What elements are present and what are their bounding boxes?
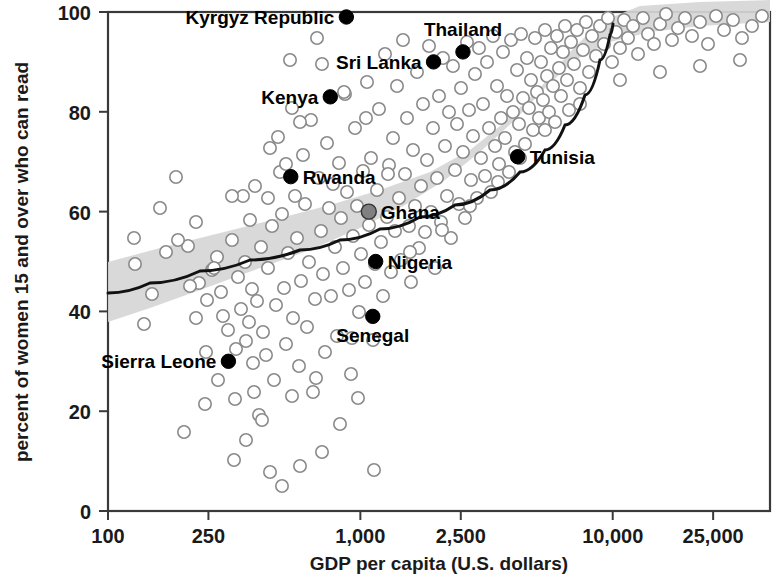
x-tick-label: 250 — [192, 525, 225, 547]
data-point — [243, 316, 255, 328]
data-point — [431, 172, 443, 184]
data-point — [535, 56, 547, 68]
data-point — [727, 14, 739, 26]
data-point — [479, 170, 491, 182]
data-point — [310, 372, 322, 384]
data-point — [433, 90, 445, 102]
data-point — [251, 295, 263, 307]
data-point — [463, 104, 475, 116]
data-point — [481, 56, 493, 68]
data-point — [397, 34, 409, 46]
data-point — [614, 74, 626, 86]
data-point — [154, 202, 166, 214]
highlighted-point-nigeria — [368, 254, 382, 268]
data-point — [694, 60, 706, 72]
data-point — [475, 152, 487, 164]
y-tick-label: 60 — [69, 202, 91, 224]
data-point — [307, 386, 319, 398]
data-point — [301, 321, 313, 333]
data-point — [294, 116, 306, 128]
data-point — [686, 30, 698, 42]
data-point — [316, 58, 328, 70]
data-point — [555, 90, 567, 102]
data-point — [602, 12, 614, 24]
data-point — [523, 102, 535, 114]
data-point — [359, 276, 371, 288]
data-point — [553, 62, 565, 74]
data-point — [199, 398, 211, 410]
data-point — [323, 202, 335, 214]
data-point — [343, 284, 355, 296]
data-point — [580, 16, 592, 28]
data-point — [511, 64, 523, 76]
data-point — [439, 140, 451, 152]
x-tick-label: 25,000 — [683, 525, 744, 547]
data-point — [469, 68, 481, 80]
data-point — [360, 112, 372, 124]
data-point — [521, 52, 533, 64]
data-point — [325, 290, 337, 302]
data-point — [262, 262, 274, 274]
data-point — [756, 10, 768, 22]
point-label-nigeria: Nigeria — [388, 252, 453, 273]
data-point — [338, 86, 350, 98]
point-label-senegal: Senegal — [336, 325, 409, 346]
x-tick-label: 100 — [91, 525, 124, 547]
data-point — [280, 158, 292, 170]
data-point — [561, 74, 573, 86]
data-point — [736, 32, 748, 44]
data-point — [232, 271, 244, 283]
data-point — [405, 276, 417, 288]
data-point — [497, 46, 509, 58]
point-label-sri-lanka: Sri Lanka — [336, 52, 422, 73]
data-point — [311, 32, 323, 44]
data-point — [734, 54, 746, 66]
highlighted-point-sri-lanka — [426, 55, 440, 69]
data-point — [451, 118, 463, 130]
data-point — [260, 349, 272, 361]
data-point — [459, 212, 471, 224]
data-point — [287, 312, 299, 324]
data-point — [309, 293, 321, 305]
data-point — [226, 190, 238, 202]
y-tick-label: 20 — [69, 401, 91, 423]
data-point — [427, 122, 439, 134]
data-point — [537, 94, 549, 106]
data-point — [415, 180, 427, 192]
data-point — [491, 80, 503, 92]
data-point — [568, 58, 580, 70]
data-point — [577, 44, 589, 56]
data-point — [184, 280, 196, 292]
data-point — [387, 132, 399, 144]
data-point — [421, 154, 433, 166]
data-point — [503, 166, 515, 178]
highlighted-point-rwanda — [284, 169, 298, 183]
data-point — [457, 146, 469, 158]
data-point — [455, 82, 467, 94]
data-point — [660, 8, 672, 20]
data-point — [559, 20, 571, 32]
data-point — [235, 303, 247, 315]
point-label-rwanda: Rwanda — [303, 167, 376, 188]
data-point — [337, 262, 349, 274]
data-point — [365, 152, 377, 164]
data-point — [255, 241, 267, 253]
data-point — [407, 144, 419, 156]
data-point — [247, 357, 259, 369]
data-point — [249, 180, 261, 192]
data-point — [335, 212, 347, 224]
chart-figure: Kyrgyz RepublicSri LankaThailandKenyaTun… — [0, 0, 778, 585]
data-point — [423, 40, 435, 52]
data-point — [515, 28, 527, 40]
data-point — [268, 374, 280, 386]
data-point — [264, 142, 276, 154]
data-point — [226, 234, 238, 246]
data-point — [632, 48, 644, 60]
data-point — [483, 122, 495, 134]
data-point — [278, 282, 290, 294]
highlighted-point-sierra-leone — [221, 354, 235, 368]
data-point — [436, 224, 448, 236]
point-label-kenya: Kenya — [261, 87, 318, 108]
scatter-plot: Kyrgyz RepublicSri LankaThailandKenyaTun… — [0, 0, 778, 585]
data-point — [447, 60, 459, 72]
